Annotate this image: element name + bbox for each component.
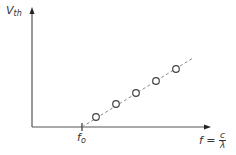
- x-axis-label: f = c λ: [199, 131, 226, 150]
- data-point-3: [133, 90, 140, 97]
- threshold-label: fo: [77, 131, 86, 145]
- fraction-denominator: λ: [219, 141, 226, 150]
- x-axis-fraction: c λ: [219, 131, 226, 150]
- data-point-5: [173, 66, 180, 73]
- data-point-2: [113, 101, 120, 108]
- y-axis-label: Vth: [6, 4, 22, 18]
- threshold-label-sub: o: [81, 136, 86, 145]
- y-axis-label-sub: th: [14, 9, 22, 18]
- x-axis-arrow-icon: [204, 125, 211, 130]
- data-point-4: [153, 78, 160, 85]
- x-axis-label-main: f =: [199, 134, 216, 147]
- y-axis-arrow-icon: [30, 7, 35, 14]
- y-axis-label-main: V: [6, 4, 14, 17]
- data-point-1: [93, 114, 100, 121]
